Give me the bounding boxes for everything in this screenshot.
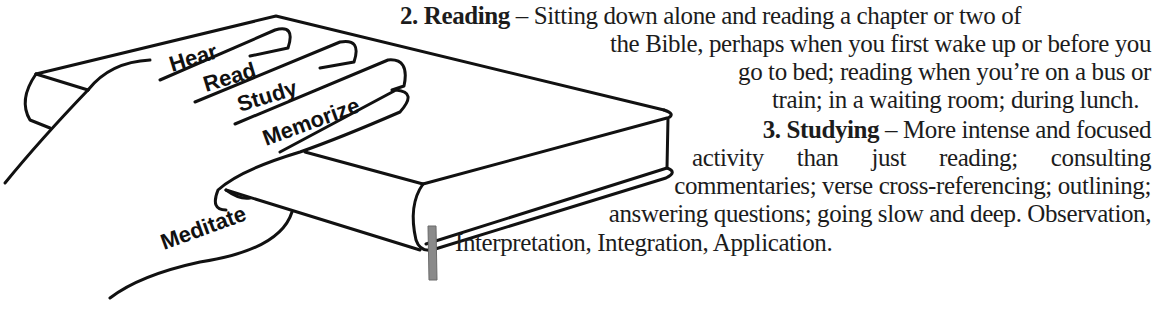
studying-line-3: commentaries; verse cross-referencing; o…	[674, 172, 1151, 200]
reading-text-1: Sitting down alone and reading a chapter…	[534, 2, 1022, 29]
thumb-meditate	[110, 190, 292, 298]
reading-line-4: train; in a waiting room; during lunch.	[772, 86, 1139, 114]
bookmark-ribbon	[428, 226, 437, 280]
reading-line-3: go to bed; reading when you’re on a bus …	[738, 58, 1151, 86]
reading-line-1: 2. Reading – Sitting down alone and read…	[400, 2, 1151, 30]
studying-title: Studying	[787, 116, 880, 143]
studying-dash: –	[885, 116, 897, 143]
studying-line-5: Interpretation, Integration, Application…	[455, 229, 832, 257]
studying-text-1: More intense and focused	[903, 116, 1151, 143]
studying-line-2: activity than just reading; consulting	[692, 144, 1151, 172]
reading-line-2: the Bible, perhaps when you first wake u…	[610, 30, 1151, 58]
studying-line-4: answering questions; going slow and deep…	[609, 200, 1151, 228]
studying-line-1: 3. Studying – More intense and focused	[763, 116, 1151, 144]
reading-title: Reading	[424, 2, 510, 29]
book-back-spine	[25, 74, 50, 128]
reading-number: 2.	[400, 2, 418, 29]
label-meditate: Meditate	[157, 201, 249, 255]
studying-number: 3.	[763, 116, 781, 143]
hand-outline	[5, 90, 88, 183]
reading-dash: –	[516, 2, 528, 29]
